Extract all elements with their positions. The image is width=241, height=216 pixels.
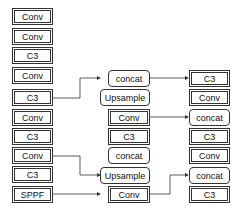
neck-block: concat [108, 147, 150, 164]
head-block: Conv [189, 89, 230, 106]
backbone-block: Conv [12, 67, 53, 84]
backbone-block: C3 [12, 89, 53, 106]
backbone-block: Conv [12, 147, 53, 164]
backbone-block: C3 [12, 128, 53, 145]
neck-block: Conv [108, 186, 150, 203]
backbone-block: SPPF [12, 186, 53, 203]
backbone-block: C3 [12, 47, 53, 64]
neck-block: concat [108, 70, 150, 87]
head-block: concat [189, 167, 230, 184]
head-block: Conv [189, 147, 230, 164]
head-block: C3 [189, 128, 230, 145]
neck-block: Conv [108, 109, 150, 126]
backbone-block: Conv [12, 28, 53, 45]
head-block: concat [189, 109, 230, 126]
head-block: C3 [189, 186, 230, 203]
backbone-block: Conv [12, 8, 53, 25]
backbone-block: Conv [12, 109, 53, 126]
neck-block: Upsample [100, 89, 150, 106]
neck-block: C3 [108, 128, 150, 145]
neck-block: Upsample [100, 167, 150, 184]
backbone-block: C3 [12, 166, 53, 183]
head-block: C3 [189, 70, 230, 87]
